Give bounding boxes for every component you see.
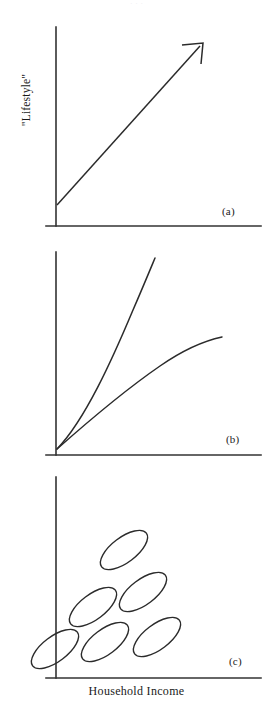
panel-a-trend-arrow-shaft <box>57 46 200 205</box>
figure-root: · · · <box>0 0 273 710</box>
panel-c-cluster-ellipse-3 <box>63 580 123 634</box>
panel-c <box>25 477 261 678</box>
panel-label-c: (c) <box>229 655 242 667</box>
panel-c-cluster-ellipse-1 <box>25 622 85 676</box>
panel-c-cluster-ellipse-6 <box>94 523 154 577</box>
panel-label-a: (a) <box>222 205 235 217</box>
panel-b-concave-curve <box>57 337 222 449</box>
figure-canvas <box>0 0 273 710</box>
panel-a <box>46 27 261 226</box>
panel-b <box>46 252 261 455</box>
panel-b-convex-curve <box>57 258 155 449</box>
panel-c-cluster-ellipse-5 <box>113 565 173 619</box>
panel-c-cluster-ellipse-4 <box>127 610 187 664</box>
x-axis-label: Household Income <box>0 684 273 699</box>
panel-c-cluster-ellipse-2 <box>75 615 135 669</box>
panel-label-b: (b) <box>226 433 239 445</box>
y-axis-label: "Lifestyle" <box>20 60 32 140</box>
